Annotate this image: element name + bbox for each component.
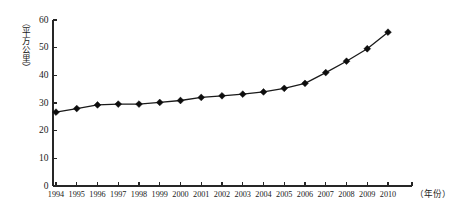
- x-axis-tick-label: 1994: [48, 190, 64, 199]
- data-markers: [53, 29, 392, 116]
- y-axis-tick-label: 10: [39, 153, 49, 163]
- x-axis-tick-label: 2009: [359, 190, 375, 199]
- data-point-marker: [302, 80, 309, 87]
- x-axis-tick-label: 2006: [297, 190, 313, 199]
- x-axis-tick-label: 2010: [380, 190, 396, 199]
- y-axis-tick-label: 60: [39, 15, 49, 25]
- data-point-marker: [322, 69, 329, 76]
- x-axis-tick-label: 1997: [110, 190, 126, 199]
- chart-canvas: 0102030405060 19941995199619971998199920…: [0, 0, 450, 216]
- x-axis-tick-label: 2000: [172, 190, 188, 199]
- x-axis-tick-label: 1995: [69, 190, 85, 199]
- y-axis: 0102030405060: [39, 15, 57, 191]
- data-point-marker: [115, 101, 122, 108]
- data-point-marker: [343, 58, 350, 65]
- line-chart: （平方公里） 0102030405060 1994199519961997199…: [0, 0, 450, 216]
- data-point-marker: [53, 109, 60, 116]
- x-axis-tick-label: 2005: [276, 190, 292, 199]
- data-point-marker: [260, 89, 267, 96]
- y-axis-tick-label: 20: [39, 125, 49, 135]
- x-axis-tick-label: 2003: [235, 190, 251, 199]
- x-axis-tick-label: 2001: [193, 190, 209, 199]
- y-axis-tick-label: 50: [39, 42, 49, 52]
- data-point-marker: [281, 85, 288, 92]
- x-axis: 1994199519961997199819992000200120022003…: [48, 182, 412, 199]
- x-axis-tick-label: 2004: [255, 190, 271, 199]
- y-axis-tick-label: 30: [39, 98, 49, 108]
- data-point-marker: [94, 102, 101, 109]
- data-point-marker: [239, 91, 246, 98]
- x-axis-tick-label: 1999: [152, 190, 168, 199]
- data-point-marker: [198, 94, 205, 101]
- x-axis-tick-label: 2008: [338, 190, 354, 199]
- x-axis-tick-label: 2007: [318, 190, 334, 199]
- data-point-marker: [73, 105, 80, 112]
- x-axis-tick-label: 1996: [89, 190, 105, 199]
- data-point-marker: [136, 101, 143, 108]
- series-line: [56, 32, 388, 112]
- data-point-marker: [156, 99, 163, 106]
- y-axis-tick-label: 40: [39, 70, 49, 80]
- x-axis-tick-label: 2002: [214, 190, 230, 199]
- x-axis-unit-label: （年份）: [415, 188, 450, 199]
- x-axis-unit-label-group: （年份）: [415, 188, 450, 199]
- data-series: [56, 32, 388, 112]
- x-axis-tick-label: 1998: [131, 190, 147, 199]
- data-point-marker: [219, 92, 226, 99]
- data-point-marker: [177, 97, 184, 104]
